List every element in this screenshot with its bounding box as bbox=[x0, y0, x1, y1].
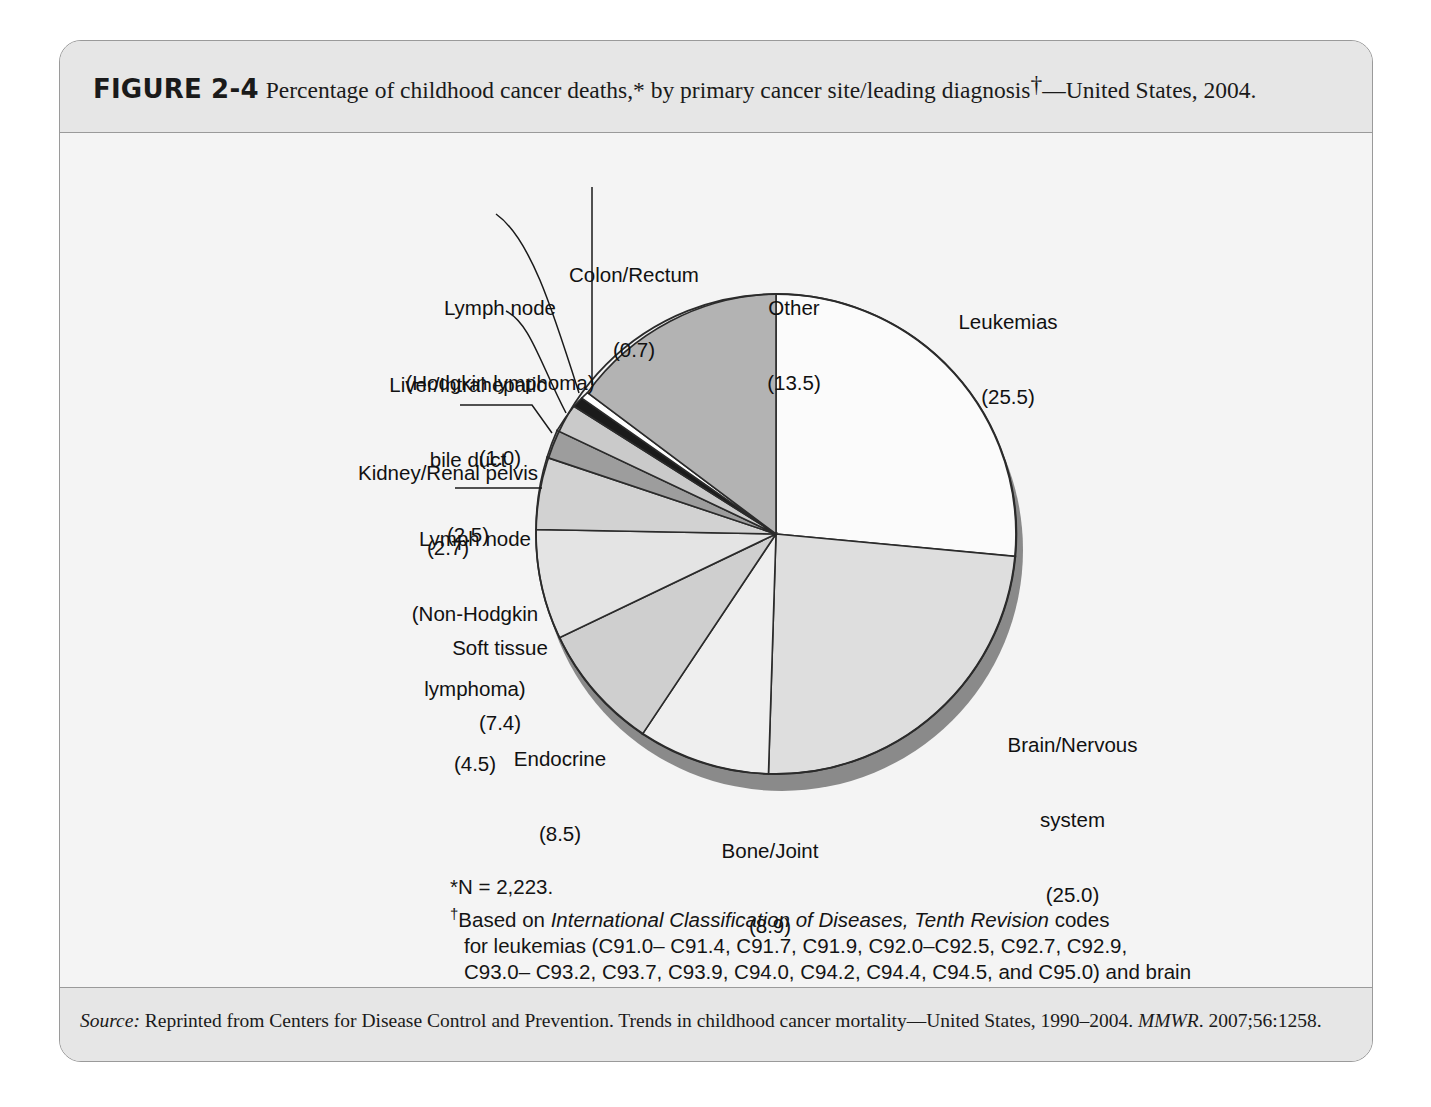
pie-label-bone-joint-name: Bone/Joint bbox=[660, 838, 880, 863]
pie-label-liver-line1: Liver/Intrahepatic bbox=[348, 372, 588, 397]
pie-label-other-name: Other bbox=[714, 295, 874, 320]
pie-label-leukemias: Leukemias (25.5) bbox=[898, 259, 1118, 459]
footnote-dagger-line2: for leukemias (C91.0– C91.4, C91.7, C91.… bbox=[450, 933, 1191, 960]
chart-footnotes: *N = 2,223. †Based on International Clas… bbox=[450, 874, 1191, 989]
source-text-b: . 2007;56:1258. bbox=[1199, 1010, 1322, 1031]
figure-card: FIGURE 2-4Percentage of childhood cancer… bbox=[59, 40, 1373, 1062]
pie-label-endocrine-name: Endocrine bbox=[460, 746, 660, 771]
figure-caption-dagger: † bbox=[1030, 71, 1042, 97]
pie-label-soft-tissue-name: Soft tissue bbox=[395, 635, 605, 660]
source-label: Source: bbox=[80, 1010, 140, 1031]
figure-header: FIGURE 2-4Percentage of childhood cancer… bbox=[60, 41, 1372, 133]
source-text-a: Reprinted from Centers for Disease Contr… bbox=[140, 1010, 1138, 1031]
pie-label-brain-line1: Brain/Nervous bbox=[965, 732, 1180, 757]
footnote-dagger-line3: C93.0– C93.2, C93.7, C93.9, C94.0, C94.2… bbox=[450, 959, 1191, 986]
pie-label-leukemias-name: Leukemias bbox=[898, 309, 1118, 334]
pie-label-nonhodgkin-line1: Lymph node bbox=[350, 526, 600, 551]
figure-title-line: FIGURE 2-4Percentage of childhood cancer… bbox=[93, 71, 1352, 104]
pie-label-other: Other (13.5) bbox=[714, 245, 874, 445]
pie-label-other-value: (13.5) bbox=[714, 370, 874, 395]
pie-label-hodgkin-line1: Lymph node bbox=[348, 295, 652, 320]
footnote-star: *N = 2,223. bbox=[450, 874, 1191, 901]
figure-caption-after: —United States, 2004. bbox=[1042, 77, 1256, 103]
source-journal: MMWR bbox=[1138, 1010, 1199, 1031]
pie-label-endocrine-value: (8.5) bbox=[460, 821, 660, 846]
figure-caption-before: Percentage of childhood cancer deaths,* … bbox=[266, 77, 1031, 103]
pie-label-brain-line2: system bbox=[965, 807, 1180, 832]
pie-label-endocrine: Endocrine (8.5) bbox=[460, 696, 660, 896]
figure-number: FIGURE 2-4 bbox=[93, 74, 259, 104]
footnote-dagger-l1a: Based on bbox=[458, 907, 550, 930]
footnote-dagger-l1-italic: International Classification of Diseases… bbox=[551, 907, 1049, 930]
source-line: Source: Reprinted from Centers for Disea… bbox=[80, 1010, 1356, 1032]
chart-plot-area: Colon/Rectum (0.7) Other (13.5) Leukemia… bbox=[60, 133, 1372, 989]
footnote-dagger-line1: †Based on International Classification o… bbox=[450, 901, 1191, 933]
source-band: Source: Reprinted from Centers for Disea… bbox=[60, 987, 1372, 1061]
footnote-dagger-l1b: codes bbox=[1049, 907, 1109, 930]
pie-label-leukemias-value: (25.5) bbox=[898, 384, 1118, 409]
